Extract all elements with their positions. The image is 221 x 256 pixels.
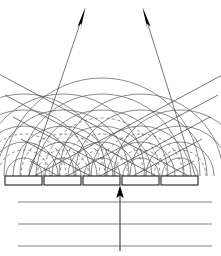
transducer-element[interactable] — [161, 176, 198, 185]
diagram-canvas — [0, 0, 221, 256]
transducer-element[interactable] — [44, 176, 81, 185]
transducer-element[interactable] — [83, 176, 120, 185]
transducer-element-array — [5, 176, 198, 185]
phased-array-diagram: Phased array transducer beam steering wi… — [0, 0, 221, 256]
below-array-mask — [0, 176, 221, 256]
transducer-element[interactable] — [122, 176, 159, 185]
transducer-element[interactable] — [5, 176, 42, 185]
